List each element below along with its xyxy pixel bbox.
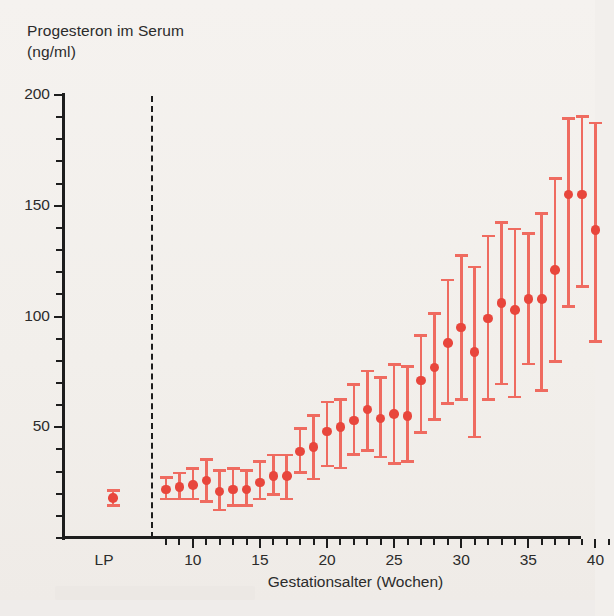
data-marker bbox=[389, 409, 399, 419]
error-bar-cap-upper bbox=[361, 370, 374, 373]
error-bar-cap-upper bbox=[374, 376, 387, 379]
error-bar-cap-upper bbox=[107, 489, 120, 492]
data-marker bbox=[295, 447, 305, 457]
page-edge bbox=[0, 600, 595, 616]
error-bar-cap-lower bbox=[107, 504, 120, 507]
x-tick-16 bbox=[272, 539, 274, 545]
data-marker bbox=[456, 323, 466, 333]
error-bar-cap-upper bbox=[307, 414, 320, 417]
y-tick-0 bbox=[56, 537, 62, 539]
error-bar-cap-lower bbox=[401, 460, 414, 463]
error-bar-cap-upper bbox=[186, 467, 199, 470]
error-bar-cap-upper bbox=[347, 383, 360, 386]
x-tick-label-10: 10 bbox=[173, 551, 213, 569]
error-bar-cap-lower bbox=[240, 504, 253, 507]
error-bar-cap-lower bbox=[589, 340, 602, 343]
error-bar-cap-lower bbox=[388, 462, 401, 465]
error-bar-cap-upper bbox=[549, 177, 562, 180]
data-marker bbox=[376, 414, 386, 424]
data-marker bbox=[336, 422, 346, 432]
error-bar-cap-upper bbox=[441, 279, 454, 282]
data-marker bbox=[470, 347, 480, 357]
y-tick-70 bbox=[56, 382, 62, 384]
x-tick-17 bbox=[286, 539, 288, 545]
x-tick-12 bbox=[219, 539, 221, 545]
x-tick-15 bbox=[259, 539, 261, 548]
data-marker bbox=[416, 376, 426, 386]
error-bar-cap-lower bbox=[267, 493, 280, 496]
error-bar-cap-upper bbox=[562, 117, 575, 120]
error-bar-cap-upper bbox=[200, 458, 213, 461]
data-marker bbox=[228, 485, 238, 495]
error-bar-cap-upper bbox=[535, 212, 548, 215]
error-bar-cap-upper bbox=[495, 221, 508, 224]
y-tick-200 bbox=[54, 94, 63, 96]
data-marker bbox=[215, 487, 225, 497]
data-marker bbox=[108, 493, 118, 503]
x-tick-29 bbox=[447, 539, 449, 545]
data-marker bbox=[322, 427, 332, 437]
error-bar-cap-upper bbox=[388, 363, 401, 366]
x-tick-26 bbox=[407, 539, 409, 545]
x-tick-40 bbox=[594, 539, 596, 548]
error-bar-cap-upper bbox=[160, 476, 173, 479]
error-bar-cap-upper bbox=[334, 398, 347, 401]
error-bar-cap-upper bbox=[428, 312, 441, 315]
error-bar-cap-lower bbox=[549, 360, 562, 363]
x-axis-label: Gestationsalter (Wochen) bbox=[0, 573, 595, 591]
error-bar-cap-lower bbox=[213, 509, 226, 512]
x-tick-10 bbox=[192, 539, 194, 548]
error-bar-cap-lower bbox=[455, 398, 468, 401]
x-tick-21 bbox=[339, 539, 341, 545]
x-tick-label-35: 35 bbox=[508, 551, 548, 569]
error-bar-cap-lower bbox=[495, 383, 508, 386]
error-bar-cap-lower bbox=[173, 498, 186, 501]
chart-title-line2: (ng/ml) bbox=[27, 43, 76, 61]
error-bar-cap-lower bbox=[468, 436, 481, 439]
data-marker bbox=[255, 478, 265, 488]
x-tick-23 bbox=[366, 539, 368, 545]
error-bar-cap-upper bbox=[401, 365, 414, 368]
x-axis-label-text: Gestationsalter (Wochen) bbox=[268, 573, 443, 590]
y-tick-50 bbox=[54, 426, 63, 428]
error-bar-cap-upper bbox=[522, 232, 535, 235]
x-tick-22 bbox=[353, 539, 355, 545]
data-marker bbox=[483, 314, 493, 324]
x-tick-32 bbox=[487, 539, 489, 545]
error-bar-cap-upper bbox=[227, 467, 240, 470]
error-bar-cap-lower bbox=[576, 285, 589, 288]
x-tick-28 bbox=[433, 539, 435, 545]
y-tick-140 bbox=[56, 227, 62, 229]
x-tick-31 bbox=[474, 539, 476, 545]
error-bar-line bbox=[581, 115, 584, 288]
y-tick-120 bbox=[56, 271, 62, 273]
error-bar-cap-lower bbox=[482, 398, 495, 401]
error-bar-cap-lower bbox=[321, 465, 334, 468]
y-tick-110 bbox=[56, 293, 62, 295]
data-marker bbox=[550, 265, 560, 275]
y-tick-label-100: 100 bbox=[4, 307, 50, 325]
error-bar-cap-upper bbox=[267, 454, 280, 457]
error-bar-line bbox=[567, 117, 570, 307]
error-bar-cap-lower bbox=[374, 456, 387, 459]
x-tick-24 bbox=[380, 539, 382, 545]
error-bar-cap-lower bbox=[200, 500, 213, 503]
error-bar-cap-lower bbox=[253, 498, 266, 501]
data-marker bbox=[161, 485, 171, 495]
error-bar-cap-upper bbox=[468, 266, 481, 269]
error-bar-cap-upper bbox=[576, 115, 589, 118]
y-tick-80 bbox=[56, 360, 62, 362]
data-marker bbox=[202, 476, 212, 486]
error-bar-cap-lower bbox=[160, 498, 173, 501]
x-tick-8 bbox=[165, 539, 167, 545]
chart-title-line1: Progesteron im Serum bbox=[27, 22, 184, 40]
data-marker bbox=[175, 482, 185, 492]
y-tick-100 bbox=[54, 316, 63, 318]
error-bar-cap-upper bbox=[482, 235, 495, 238]
error-bar-cap-lower bbox=[227, 504, 240, 507]
error-bar-cap-upper bbox=[173, 472, 186, 475]
error-bar-cap-lower bbox=[428, 418, 441, 421]
error-bar-cap-lower bbox=[562, 305, 575, 308]
error-bar-cap-upper bbox=[294, 427, 307, 430]
